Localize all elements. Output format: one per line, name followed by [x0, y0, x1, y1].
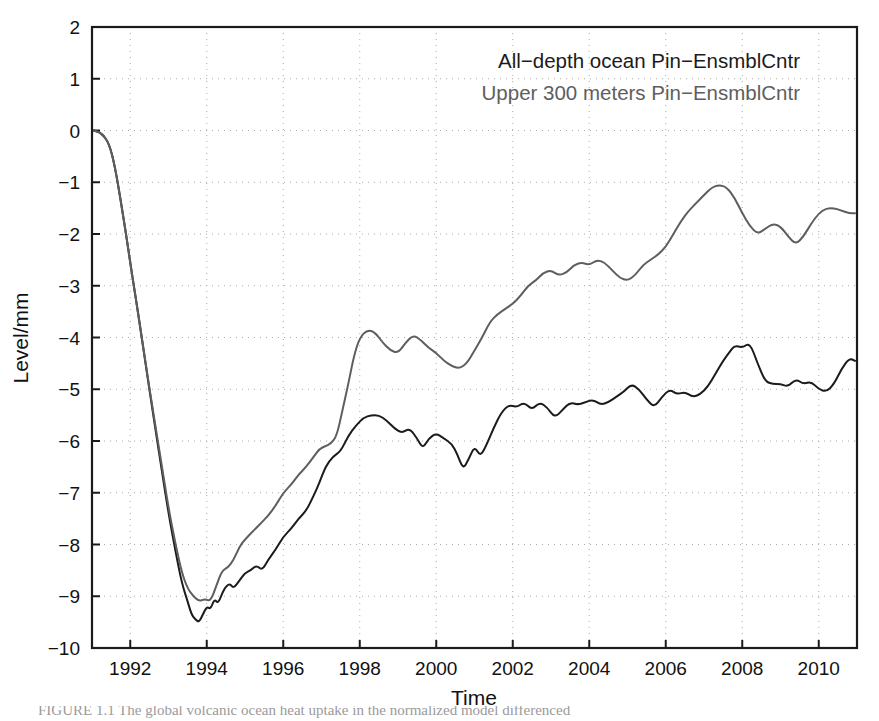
y-tick-label: −4	[58, 328, 80, 349]
y-tick-label: 1	[69, 69, 80, 90]
y-tick-label: −9	[58, 586, 80, 607]
y-axis-title: Level/mm	[9, 292, 32, 383]
figure-caption: FIGURE 1.1 The global volcanic ocean hea…	[38, 706, 570, 719]
x-tick-label: 1994	[186, 658, 229, 679]
y-tick-label: −5	[58, 379, 80, 400]
legend-entry-0: All−depth ocean Pin−EnsmblCntr	[498, 49, 800, 72]
x-tick-label: 1996	[262, 658, 304, 679]
y-tick-label: −7	[58, 483, 80, 504]
y-tick-label: −10	[48, 638, 80, 659]
x-tick-label: 2010	[798, 658, 840, 679]
y-tick-label: −2	[58, 224, 80, 245]
line-chart: 210−1−2−3−4−5−6−7−8−9−10 199219941996199…	[0, 0, 879, 721]
x-tick-label: 2008	[721, 658, 763, 679]
y-tick-label: −3	[58, 276, 80, 297]
legend-entry-1: Upper 300 meters Pin−EnsmblCntr	[482, 81, 801, 104]
figure-caption-strip: FIGURE 1.1 The global volcanic ocean hea…	[0, 706, 879, 721]
x-tick-label: 2006	[645, 658, 687, 679]
y-tick-label: −6	[58, 431, 80, 452]
y-tick-label: −1	[58, 172, 80, 193]
y-tick-label: 2	[69, 17, 80, 38]
x-tick-label: 1992	[109, 658, 151, 679]
figure-container: 210−1−2−3−4−5−6−7−8−9−10 199219941996199…	[0, 0, 879, 721]
x-tick-label: 1998	[339, 658, 381, 679]
x-tick-label: 2002	[492, 658, 534, 679]
x-tick-label: 2004	[568, 658, 611, 679]
y-tick-label: −8	[58, 535, 80, 556]
x-tick-label: 2000	[415, 658, 457, 679]
y-tick-label: 0	[69, 121, 80, 142]
